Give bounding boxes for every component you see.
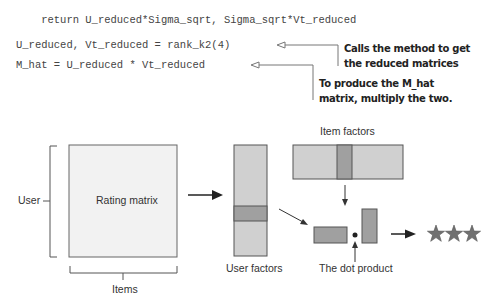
item-vector xyxy=(362,209,377,243)
arrow-label-to-dot xyxy=(352,241,358,262)
annotation-rank-k2-line1: Calls the method to get xyxy=(344,41,470,56)
dot-operator xyxy=(353,233,358,238)
arrow-to-factors xyxy=(188,190,223,200)
annotation-rank-k2: Calls the method to get the reduced matr… xyxy=(344,41,470,71)
annotation-m-hat: To produce the M_hat matrix, multiply th… xyxy=(319,76,452,106)
item-factor-column-highlight xyxy=(337,145,352,179)
item-factors-matrix xyxy=(293,145,403,179)
items-label: Items xyxy=(112,283,138,295)
user-factors-label: User factors xyxy=(226,262,283,274)
annotation-callout-1 xyxy=(277,42,338,66)
three-stars-icon xyxy=(427,225,480,241)
annotation-m-hat-line1: To produce the M_hat xyxy=(319,76,452,91)
annotation-callout-2 xyxy=(251,62,313,100)
user-factors-matrix xyxy=(234,145,267,256)
items-bracket xyxy=(70,266,177,280)
annotation-m-hat-line2: matrix, multiply the two. xyxy=(319,91,452,106)
annotation-rank-k2-line2: the reduced matrices xyxy=(344,56,470,71)
user-bracket xyxy=(43,146,57,257)
user-factor-row-highlight xyxy=(234,206,267,221)
user-vector xyxy=(314,227,347,243)
arrow-item-to-dot xyxy=(342,185,348,206)
dot-product-label: The dot product xyxy=(319,262,393,274)
rating-matrix-label: Rating matrix xyxy=(96,194,158,206)
arrow-to-rating xyxy=(391,230,416,239)
arrow-user-to-dot xyxy=(279,209,308,225)
user-label: User xyxy=(18,194,40,206)
item-factors-label: Item factors xyxy=(320,125,375,137)
